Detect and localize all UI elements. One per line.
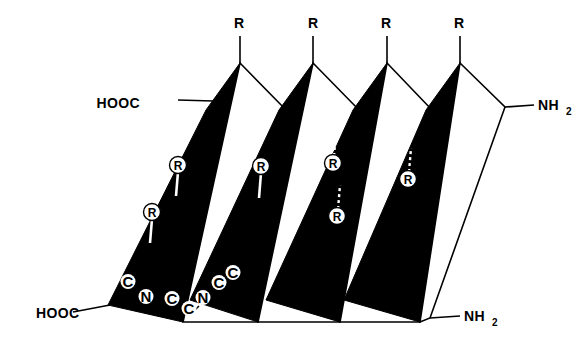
backbone-atom-label-1: C — [123, 273, 134, 290]
r-circle-label-5: R — [333, 210, 342, 224]
amino-label-top-subscript: 2 — [566, 106, 572, 117]
backbone-atom-label-7: C — [228, 264, 239, 281]
backbone-bond-2 — [152, 300, 166, 301]
carboxyl-label-top: HOOC — [96, 95, 140, 111]
backbone-atom-7: C — [226, 264, 241, 281]
backbone-atom-6: C — [212, 274, 227, 291]
backbone-atom-label-5: N — [198, 289, 209, 306]
carboxyl-bond-top — [178, 100, 213, 101]
backbone-atom-label-2: N — [141, 288, 152, 305]
r-circle-label-6: R — [404, 173, 413, 187]
r-label-top-2: R — [308, 15, 318, 31]
backbone-atom-3: C — [165, 290, 180, 307]
amino-label-top-text: NH — [538, 97, 559, 113]
r-circle-label-1: R — [174, 159, 183, 173]
amino-label-bottom-text: NH — [464, 308, 485, 324]
backbone-atom-4: C — [182, 300, 197, 317]
pleated-sheet-svg: R R R R HOOC HOOC NH 2 NH 2 — [0, 0, 588, 352]
r-label-top-4: R — [454, 15, 464, 31]
backbone-atom-label-4: C — [184, 300, 195, 317]
backbone-atom-2: N — [139, 288, 154, 305]
r-circle-label-2: R — [148, 206, 157, 220]
backbone-atom-1: C — [121, 273, 136, 290]
r-label-top-3: R — [381, 15, 391, 31]
backbone-atom-label-6: C — [214, 274, 225, 291]
carboxyl-label-bottom: HOOC — [36, 305, 80, 321]
r-circle-label-4: R — [329, 157, 338, 171]
r-label-top-1: R — [234, 15, 244, 31]
r-circle-label-3: R — [257, 160, 266, 174]
backbone-atom-5: N — [196, 289, 211, 306]
amino-label-bottom-subscript: 2 — [492, 317, 498, 328]
beta-pleated-sheet-figure: R R R R HOOC HOOC NH 2 NH 2 — [0, 0, 588, 352]
backbone-atom-label-3: C — [167, 290, 178, 307]
